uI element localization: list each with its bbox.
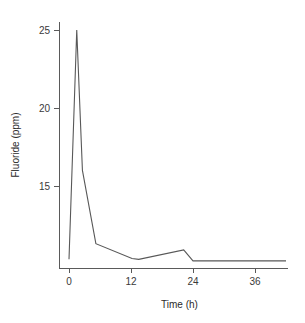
series-group	[69, 30, 286, 261]
chart-canvas: 152025 0122436 Time (h) Fluoride (ppm)	[0, 0, 305, 323]
x-axis-ticks: 0122436	[66, 268, 261, 287]
y-tick-label: 20	[39, 103, 51, 114]
y-axis-title: Fluoride (ppm)	[10, 112, 21, 177]
y-axis-group: 152025	[39, 22, 59, 268]
x-tick-label: 36	[249, 276, 261, 287]
y-axis-ticks: 152025	[39, 25, 59, 192]
x-tick-label: 24	[187, 276, 199, 287]
x-tick-label: 0	[66, 276, 72, 287]
y-tick-label: 15	[39, 181, 51, 192]
x-tick-label: 12	[125, 276, 137, 287]
x-axis-title: Time (h)	[161, 299, 198, 310]
y-tick-label: 25	[39, 25, 51, 36]
fluoride-time-chart: 152025 0122436 Time (h) Fluoride (ppm)	[0, 0, 305, 323]
series-line-fluoride	[69, 30, 286, 261]
x-axis-group: 0122436	[59, 268, 288, 287]
